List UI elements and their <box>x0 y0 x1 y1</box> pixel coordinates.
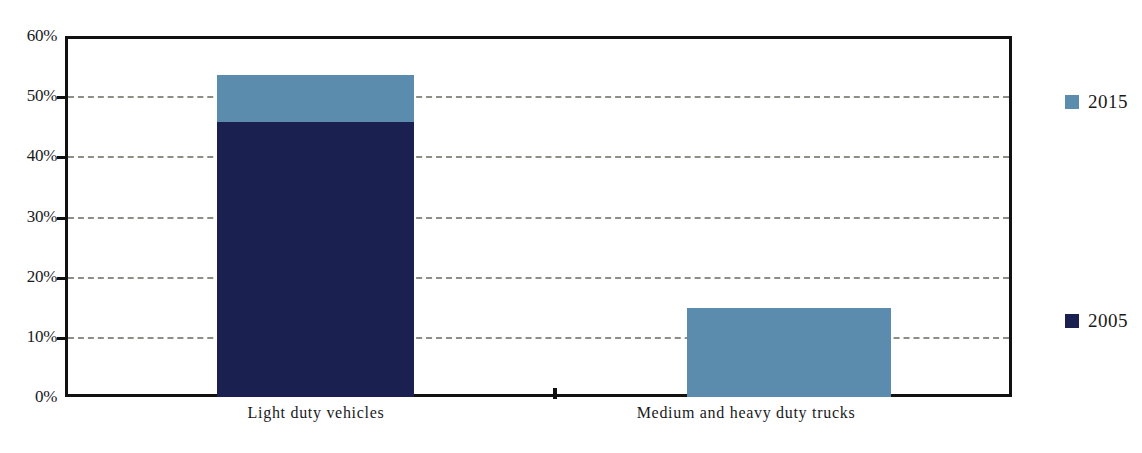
legend-swatch-2005-icon <box>1065 314 1079 328</box>
chart-title <box>0 0 1040 4</box>
y-axis-label-10: 10% <box>5 327 57 347</box>
legend-swatch-2015-icon <box>1065 95 1079 109</box>
bar-medium-heavy-2015[interactable] <box>687 308 891 397</box>
gridline-50 <box>68 96 1009 98</box>
gridline-40 <box>68 156 1009 158</box>
bar-light-duty-2015[interactable] <box>217 75 414 122</box>
y-axis-label-30: 30% <box>5 207 57 227</box>
legend-item-2005[interactable]: 2005 <box>1065 311 1128 330</box>
chart-container: 60% 50% 40% 30% 20% 10% 0% Light duty ve… <box>0 0 1142 453</box>
gridline-30 <box>68 217 1009 219</box>
y-axis-label-20: 20% <box>5 267 57 287</box>
x-axis-label-light-duty-vehicles: Light duty vehicles <box>216 404 416 422</box>
y-axis-label-40: 40% <box>5 146 57 166</box>
x-axis-label-medium-heavy-trucks: Medium and heavy duty trucks <box>586 404 906 422</box>
x-axis-center-tick <box>553 388 557 399</box>
y-axis-label-0: 0% <box>5 387 57 407</box>
y-axis-label-60: 60% <box>5 26 57 46</box>
y-axis-label-50: 50% <box>5 86 57 106</box>
legend-item-2015[interactable]: 2015 <box>1065 92 1128 111</box>
gridline-20 <box>68 277 1009 279</box>
bar-light-duty-2005[interactable] <box>217 122 414 397</box>
legend-label-2005: 2005 <box>1088 311 1128 330</box>
legend-label-2015: 2015 <box>1088 92 1128 111</box>
plot-area <box>65 36 1012 397</box>
